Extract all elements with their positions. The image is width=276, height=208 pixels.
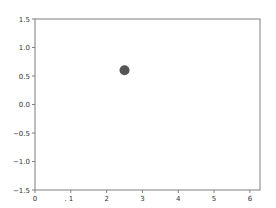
data-points bbox=[120, 65, 130, 75]
x-tick-label: 0 bbox=[33, 195, 37, 203]
y-tick-label: 0.0 bbox=[19, 101, 30, 109]
axes-frame bbox=[35, 19, 260, 190]
x-tick-label: 5 bbox=[212, 195, 216, 203]
x-tick-label: 2 bbox=[104, 195, 108, 203]
x-axis-ticks: 0. 123456 bbox=[33, 190, 253, 203]
y-tick-label: 0.5 bbox=[19, 73, 30, 81]
x-tick-label: 4 bbox=[176, 195, 181, 203]
y-tick-label: −1.5 bbox=[13, 187, 30, 195]
y-tick-label: −1.0 bbox=[13, 158, 30, 166]
y-tick-label: 1.5 bbox=[19, 16, 30, 24]
plot-area-border bbox=[35, 19, 260, 190]
x-tick-label: . 1 bbox=[64, 195, 73, 203]
chart-figure: 1.51.00.50.0−0.5−1.0−1.5 0. 123456 bbox=[0, 0, 276, 208]
y-axis-ticks: 1.51.00.50.0−0.5−1.0−1.5 bbox=[13, 16, 35, 195]
data-point bbox=[120, 65, 130, 75]
y-tick-label: −0.5 bbox=[13, 130, 30, 138]
x-tick-label: 3 bbox=[140, 195, 144, 203]
x-tick-label: 6 bbox=[248, 195, 253, 203]
y-tick-label: 1.0 bbox=[19, 44, 30, 52]
scatter-plot: 1.51.00.50.0−0.5−1.0−1.5 0. 123456 bbox=[0, 0, 276, 208]
